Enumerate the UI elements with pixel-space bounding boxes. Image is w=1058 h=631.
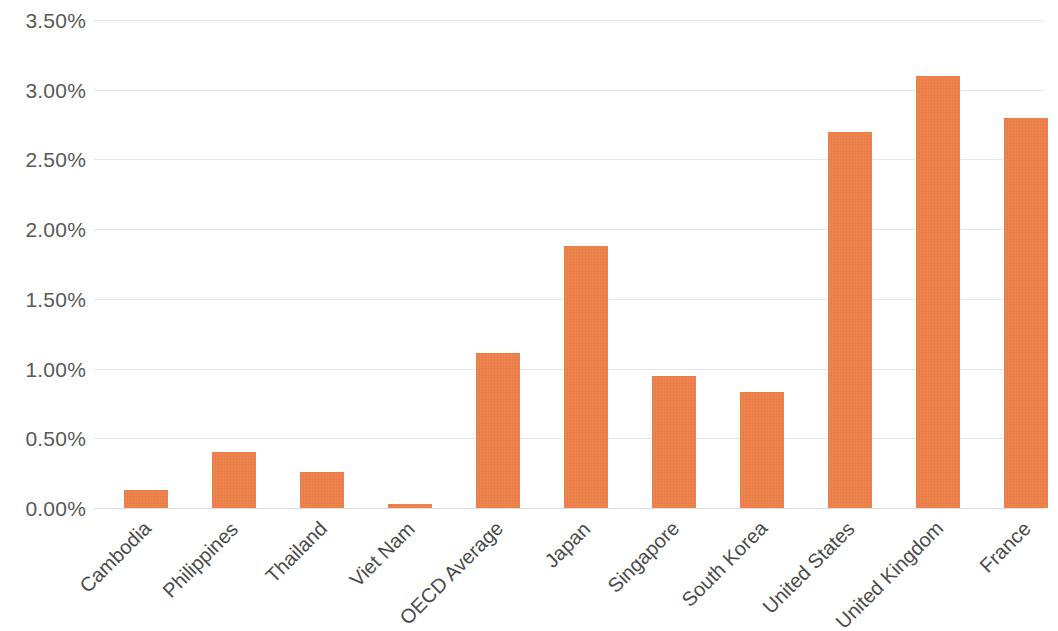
bar [212,452,256,508]
y-axis-tick-label: 2.00% [0,219,86,240]
y-axis-tick-label: 3.00% [0,79,86,100]
bar [564,246,608,508]
gridline [94,90,1044,91]
gridline [94,159,1044,160]
bar [916,76,960,508]
gridline [94,20,1044,21]
y-axis-tick-label: 1.50% [0,288,86,309]
x-axis-tick-label: Singapore [604,518,683,597]
bar [828,132,872,508]
bar [124,490,168,508]
bar [740,392,784,508]
gridline [94,229,1044,230]
y-axis: 0.00%0.50%1.00%1.50%2.00%2.50%3.00%3.50% [0,20,86,508]
x-axis-tick-label: Cambodia [76,518,155,597]
bar [652,376,696,508]
x-axis-tick-label: Viet Nam [346,518,418,590]
y-axis-tick-label: 1.00% [0,358,86,379]
x-axis-tick-label: France [976,518,1034,576]
y-axis-tick-label: 0.00% [0,498,86,519]
y-axis-tick-label: 2.50% [0,149,86,170]
bar [1004,118,1048,508]
x-axis-tick-label: Philippines [159,518,242,601]
x-axis-tick-label: United States [759,518,858,617]
bar [476,353,520,508]
x-axis-tick-label: South Korea [678,518,771,611]
y-axis-tick-label: 3.50% [0,10,86,31]
x-axis-tick-label: Japan [541,518,594,571]
x-axis: CambodiaPhilippinesThailandViet NamOECD … [94,508,1044,626]
plot-area [94,20,1044,508]
bar [300,472,344,508]
x-axis-tick-label: Thailand [262,518,330,586]
y-axis-tick-label: 0.50% [0,428,86,449]
